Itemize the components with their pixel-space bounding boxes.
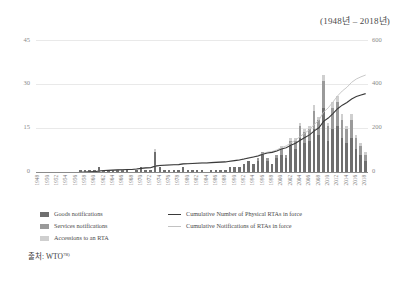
- bar-stack: [303, 129, 306, 173]
- y-axis-label-30: 30: [8, 80, 30, 87]
- legend-item-cumulative-physical: Cumulative Number of Physical RTAs in fo…: [168, 209, 378, 220]
- bar-segment: [313, 111, 316, 129]
- legend-swatch-accessions-icon: [40, 236, 49, 241]
- bar-segment: [350, 138, 353, 173]
- source-prefix: 출처:: [28, 252, 44, 261]
- bar-stack: [154, 149, 157, 173]
- bar-stack: [341, 114, 344, 173]
- bar-stack: [359, 143, 362, 173]
- y-axis-label-15: 15: [8, 124, 30, 131]
- legend-swatch-goods-icon: [40, 212, 49, 217]
- bar-stack: [327, 123, 330, 173]
- bar-stack: [331, 102, 334, 173]
- bar-stack: [266, 158, 269, 173]
- x-tick-label: 2018: [363, 175, 368, 185]
- bar-segment: [336, 102, 339, 126]
- y2-axis-label-600: 600: [372, 37, 396, 44]
- bar-stack: [336, 96, 339, 173]
- bar-segment: [327, 126, 330, 141]
- legend-label-cumulative-notifications: Cumulative Notifications of RTAs in forc…: [186, 223, 292, 229]
- bar-segment: [341, 138, 344, 173]
- bar-segment: [308, 141, 311, 174]
- bar-segment: [280, 155, 283, 173]
- y-axis-label-0: 0: [8, 168, 30, 175]
- legend-item-accessions: Accessions to an RTA: [40, 233, 170, 244]
- bar-segment: [331, 129, 334, 173]
- bar-segment: [355, 138, 358, 150]
- source-footnote-marker: 78): [63, 252, 70, 257]
- bar-stack: [280, 146, 283, 173]
- bar-segment: [154, 152, 157, 173]
- y-axis-label-45: 45: [8, 37, 30, 44]
- bar-segment: [331, 108, 334, 129]
- bar-segment: [336, 126, 339, 173]
- legend-label-accessions: Accessions to an RTA: [54, 235, 109, 241]
- bar-stack: [322, 75, 325, 173]
- bar-segment: [345, 129, 348, 144]
- bar-segment: [355, 149, 358, 173]
- x-axis-line: [36, 172, 368, 173]
- bar-stack: [289, 138, 292, 173]
- legend-line-notifications-icon: [168, 226, 181, 227]
- y2-axis-label-400: 400: [372, 80, 396, 87]
- bar-segment: [317, 120, 320, 135]
- legend-label-services: Services notifications: [54, 223, 107, 229]
- bar-stack: [355, 135, 358, 173]
- bar-stack: [345, 126, 348, 173]
- source-note: 출처: WTO78): [28, 250, 70, 261]
- rta-notifications-figure: (1948년 – 2018년) 45 30 15 0 600 400 200 0…: [0, 0, 406, 281]
- legend-item-services: Services notifications: [40, 221, 170, 232]
- bar-stack: [261, 152, 264, 173]
- bar-stack: [350, 114, 353, 173]
- bar-group: [36, 40, 368, 173]
- legend-label-goods: Goods notifications: [54, 211, 103, 217]
- bar-segment: [308, 129, 311, 141]
- bar-segment: [294, 149, 297, 173]
- bar-stack: [317, 117, 320, 173]
- bar-stack: [275, 155, 278, 173]
- legend-item-goods: Goods notifications: [40, 209, 170, 220]
- bar-stack: [364, 152, 367, 173]
- bar-segment: [294, 141, 297, 150]
- legend-label-cumulative-physical: Cumulative Number of Physical RTAs in fo…: [186, 211, 302, 217]
- bar-segment: [261, 155, 264, 173]
- x-tick: 2018: [363, 175, 368, 203]
- bar-segment: [299, 126, 302, 138]
- legend-line-physical-icon: [168, 214, 181, 215]
- x-axis-tick-labels: 1948195019521954195619581960196219641966…: [36, 175, 368, 203]
- bar-segment: [359, 155, 362, 173]
- bar-segment: [275, 158, 278, 173]
- bar-segment: [350, 120, 353, 138]
- bar-segment: [299, 138, 302, 173]
- bar-segment: [341, 120, 344, 138]
- y2-axis-label-0: 0: [372, 168, 396, 175]
- bar-slot: [363, 40, 368, 173]
- bar-segment: [317, 135, 320, 173]
- bar-segment: [313, 129, 316, 173]
- bar-segment: [303, 132, 306, 144]
- bar-segment: [322, 108, 325, 173]
- y2-axis-label-200: 200: [372, 124, 396, 131]
- legend-item-cumulative-notifications: Cumulative Notifications of RTAs in forc…: [168, 221, 378, 232]
- bar-segment: [345, 143, 348, 173]
- chart-subtitle: (1948년 – 2018년): [320, 14, 390, 27]
- bar-segment: [285, 158, 288, 173]
- plot-area: [36, 40, 368, 173]
- bar-stack: [257, 158, 260, 173]
- bar-stack: [294, 138, 297, 173]
- bar-stack: [285, 155, 288, 173]
- bar-stack: [299, 123, 302, 173]
- bar-segment: [322, 81, 325, 108]
- bar-segment: [289, 146, 292, 173]
- bar-stack: [308, 126, 311, 173]
- legend-swatch-services-icon: [40, 224, 49, 229]
- bar-segment: [327, 141, 330, 174]
- bar-segment: [359, 146, 362, 155]
- source-name: WTO: [46, 252, 63, 261]
- bar-stack: [313, 105, 316, 173]
- bar-segment: [303, 143, 306, 173]
